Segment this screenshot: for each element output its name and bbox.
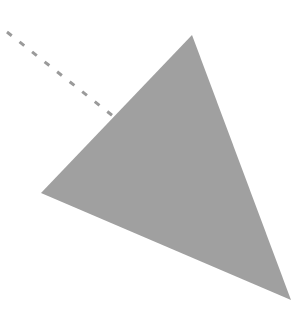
gray-triangle — [41, 35, 291, 300]
diagram-canvas — [0, 0, 308, 317]
dashed-line — [7, 32, 118, 120]
